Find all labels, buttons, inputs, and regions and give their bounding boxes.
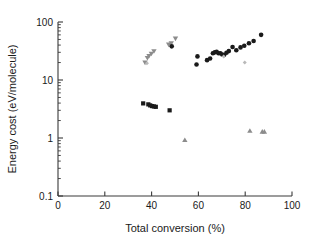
data-point [251,39,256,44]
data-point [194,62,199,67]
data-point [169,44,174,49]
y-tick-label: 10 [42,75,54,86]
data-point [242,43,247,48]
x-tick-label: 0 [55,200,61,211]
y-tick-label: 0.1 [39,191,53,202]
data-point [168,108,172,112]
x-tick-label: 20 [99,200,111,211]
chart-figure: 0204060801000.1110100 Total conversion (… [0,0,312,244]
scatter-plot: 0204060801000.1110100 Total conversion (… [0,0,312,244]
y-tick-label: 100 [36,17,53,28]
data-point [141,101,145,105]
x-tick-label: 40 [146,200,158,211]
data-point [259,33,264,38]
data-point [208,56,213,61]
data-point [234,48,239,53]
x-tick-label: 80 [240,200,252,211]
x-tick-label: 60 [193,200,205,211]
y-axis-title: Energy cost (eV/molecule) [6,45,18,174]
data-point [230,45,235,50]
data-point [195,54,200,59]
x-tick-label: 100 [284,200,301,211]
data-point [154,105,158,109]
x-axis-title: Total conversion (%) [125,222,225,234]
data-point [227,49,232,54]
data-point [247,41,252,46]
y-tick-label: 1 [47,133,53,144]
